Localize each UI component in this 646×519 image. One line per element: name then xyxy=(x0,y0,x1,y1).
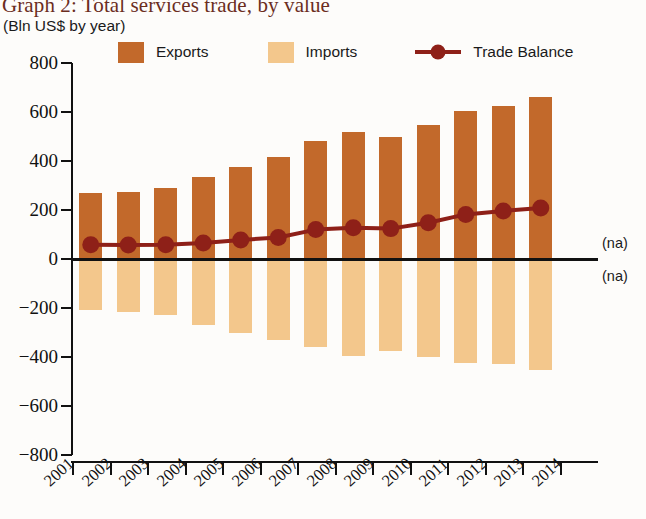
y-axis-tick xyxy=(61,62,72,64)
x-axis-tick-label: 2009 xyxy=(340,454,378,491)
y-axis-tick xyxy=(61,111,72,113)
bar-exports xyxy=(417,125,440,259)
bar-imports xyxy=(117,259,140,312)
legend-label-exports: Exports xyxy=(156,43,209,61)
y-axis-labels: 8006004002000−200−400−600−800 xyxy=(0,63,58,455)
chart-title: Graph 2: Total services trade, by value xyxy=(2,0,330,18)
x-axis-tick-label: 2013 xyxy=(490,454,528,491)
y-axis-tick-label: 0 xyxy=(49,248,59,270)
bar-exports xyxy=(379,137,402,260)
bar-exports xyxy=(229,167,252,259)
legend-label-imports: Imports xyxy=(306,43,358,61)
y-axis-tick-label: −200 xyxy=(19,297,58,319)
y-axis-tick xyxy=(61,356,72,358)
bar-exports xyxy=(529,97,552,259)
y-axis-tick-label: −800 xyxy=(19,444,58,466)
x-axis-tick-label: 2010 xyxy=(378,454,416,491)
chart-legend: Exports Imports Trade Balance xyxy=(118,40,574,64)
x-axis-tick-label: 2011 xyxy=(415,454,452,491)
bar-exports xyxy=(454,111,477,259)
chart-container: Graph 2: Total services trade, by value … xyxy=(0,0,646,519)
bar-imports xyxy=(304,259,327,347)
plot-area: (na)(na) xyxy=(72,63,597,455)
bar-imports xyxy=(229,259,252,333)
x-axis-tick-label: 2004 xyxy=(153,454,191,491)
y-axis-tick-label: 800 xyxy=(30,52,59,74)
y-axis-tick xyxy=(61,405,72,407)
legend-item-exports: Exports xyxy=(118,42,209,63)
y-axis-tick-label: −400 xyxy=(19,346,58,368)
bar-imports xyxy=(417,259,440,357)
bar-imports xyxy=(342,259,365,356)
legend-item-trade-balance: Trade Balance xyxy=(415,42,573,62)
bar-exports xyxy=(192,177,215,259)
bar-imports xyxy=(192,259,215,325)
x-axis-tick-label: 2005 xyxy=(190,454,228,491)
x-axis-tick-label: 2006 xyxy=(228,454,266,491)
y-axis-tick xyxy=(61,160,72,162)
x-axis-tick-label: 2008 xyxy=(303,454,341,491)
na-label-below: (na) xyxy=(602,268,628,284)
bar-imports xyxy=(267,259,290,340)
x-axis-tick-label: 2014 xyxy=(528,454,566,491)
bar-exports xyxy=(492,106,515,259)
y-axis-tick xyxy=(61,307,72,309)
x-axis-tick-label: 2007 xyxy=(265,454,303,491)
bar-exports xyxy=(154,188,177,259)
y-axis-tick-label: −600 xyxy=(19,395,58,417)
legend-label-trade-balance: Trade Balance xyxy=(473,43,573,61)
bar-exports xyxy=(304,141,327,259)
bar-imports xyxy=(492,259,515,364)
x-axis-tick-label: 2002 xyxy=(78,454,116,491)
legend-item-imports: Imports xyxy=(268,42,358,63)
bar-imports xyxy=(379,259,402,351)
line-marker-icon xyxy=(415,42,461,62)
bar-imports xyxy=(79,259,102,310)
x-axis-tick-label: 2003 xyxy=(115,454,153,491)
imports-swatch-icon xyxy=(268,42,294,63)
bar-exports xyxy=(267,157,290,259)
x-axis-tick-label: 2012 xyxy=(453,454,491,491)
y-axis-tick xyxy=(61,209,72,211)
na-label-above: (na) xyxy=(602,235,628,251)
bar-imports xyxy=(154,259,177,315)
bar-exports xyxy=(117,192,140,259)
y-axis-tick-label: 400 xyxy=(30,150,59,172)
zero-baseline xyxy=(71,258,598,261)
bar-exports xyxy=(79,193,102,259)
bar-exports xyxy=(342,132,365,259)
y-axis-tick-label: 600 xyxy=(30,101,59,123)
chart-subtitle: (Bln US$ by year) xyxy=(3,17,125,35)
exports-swatch-icon xyxy=(118,42,144,63)
y-axis-tick-label: 200 xyxy=(30,199,59,221)
bar-imports xyxy=(529,259,552,370)
bar-imports xyxy=(454,259,477,363)
